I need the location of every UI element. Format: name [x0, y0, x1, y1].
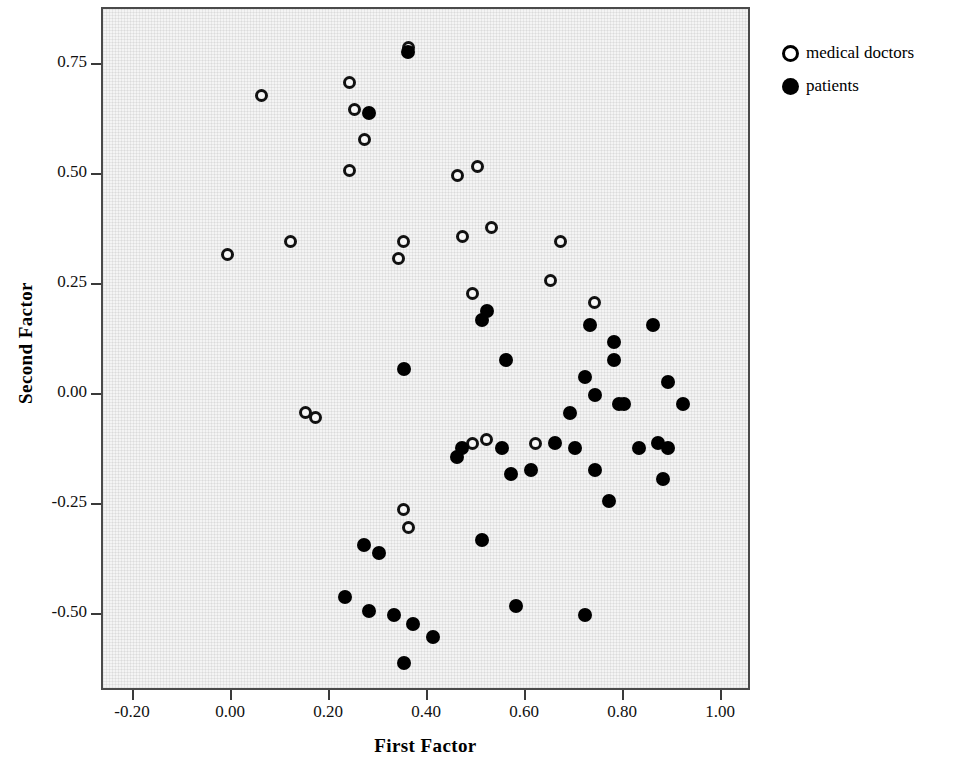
data-point-patient: [578, 608, 592, 622]
data-point-patient: [426, 630, 440, 644]
open-circle-icon: [782, 45, 799, 62]
y-tick-label: -0.25: [11, 492, 87, 512]
data-point-patient: [475, 313, 489, 327]
data-point-medical-doctor: [392, 252, 405, 265]
data-point-patient: [401, 45, 415, 59]
data-point-medical-doctor: [348, 103, 361, 116]
legend: medical doctors patients: [782, 42, 957, 108]
data-point-patient: [475, 533, 489, 547]
x-tick-label: 0.40: [391, 702, 461, 722]
x-tick-mark: [622, 690, 624, 700]
data-point-medical-doctor: [284, 235, 297, 248]
data-point-patient: [406, 617, 420, 631]
data-point-patient: [578, 370, 592, 384]
x-tick-label: 0.00: [195, 702, 265, 722]
legend-item-patients: patients: [782, 75, 957, 97]
data-point-patient: [583, 318, 597, 332]
data-point-patient: [676, 397, 690, 411]
data-point-patient: [563, 406, 577, 420]
data-point-medical-doctor: [485, 221, 498, 234]
data-point-patient: [450, 450, 464, 464]
data-point-patient: [656, 472, 670, 486]
data-point-patient: [357, 538, 371, 552]
y-tick-mark: [91, 613, 101, 615]
data-point-patient: [568, 441, 582, 455]
data-point-patient: [548, 436, 562, 450]
y-tick-label: 0.50: [11, 162, 87, 182]
data-point-patient: [504, 467, 518, 481]
data-point-patient: [387, 608, 401, 622]
data-points-layer: [103, 9, 748, 688]
data-point-patient: [362, 106, 376, 120]
filled-circle-icon: [782, 78, 799, 95]
data-point-patient: [372, 546, 386, 560]
data-point-medical-doctor: [221, 248, 234, 261]
data-point-medical-doctor: [397, 235, 410, 248]
y-tick-mark: [91, 503, 101, 505]
data-point-medical-doctor: [471, 160, 484, 173]
data-point-patient: [397, 656, 411, 670]
data-point-patient: [362, 604, 376, 618]
x-tick-label: 0.60: [489, 702, 559, 722]
y-tick-mark: [91, 173, 101, 175]
x-tick-mark: [524, 690, 526, 700]
data-point-patient: [397, 362, 411, 376]
y-tick-mark: [91, 63, 101, 65]
x-tick-label: -0.20: [97, 702, 167, 722]
scatter-plot-figure: -0.200.000.200.400.600.801.00 0.750.500.…: [0, 0, 959, 775]
y-tick-label: 0.75: [11, 52, 87, 72]
x-tick-mark: [230, 690, 232, 700]
data-point-patient: [607, 335, 621, 349]
data-point-medical-doctor: [466, 287, 479, 300]
x-tick-mark: [328, 690, 330, 700]
data-point-medical-doctor: [456, 230, 469, 243]
legend-label-medical-doctors: medical doctors: [806, 43, 914, 63]
data-point-medical-doctor: [255, 89, 268, 102]
data-point-patient: [509, 599, 523, 613]
data-point-medical-doctor: [358, 133, 371, 146]
data-point-patient: [632, 441, 646, 455]
x-tick-mark: [720, 690, 722, 700]
data-point-medical-doctor: [529, 437, 542, 450]
x-tick-mark: [426, 690, 428, 700]
data-point-medical-doctor: [544, 274, 557, 287]
x-axis-label: First Factor: [101, 735, 750, 757]
data-point-medical-doctor: [451, 169, 464, 182]
data-point-patient: [495, 441, 509, 455]
y-tick-label: -0.50: [11, 602, 87, 622]
data-point-patient: [607, 353, 621, 367]
y-axis-label: Second Factor: [15, 233, 37, 453]
data-point-medical-doctor: [309, 411, 322, 424]
data-point-patient: [338, 590, 352, 604]
data-point-medical-doctor: [343, 164, 356, 177]
legend-label-patients: patients: [806, 76, 859, 96]
data-point-medical-doctor: [588, 296, 601, 309]
data-point-patient: [646, 318, 660, 332]
data-point-patient: [602, 494, 616, 508]
legend-item-medical-doctors: medical doctors: [782, 42, 957, 64]
x-tick-mark: [132, 690, 134, 700]
x-tick-label: 1.00: [685, 702, 755, 722]
data-point-medical-doctor: [554, 235, 567, 248]
data-point-medical-doctor: [402, 521, 415, 534]
data-point-patient: [661, 375, 675, 389]
x-tick-label: 0.80: [587, 702, 657, 722]
data-point-medical-doctor: [480, 433, 493, 446]
data-point-patient: [499, 353, 513, 367]
data-point-medical-doctor: [397, 503, 410, 516]
data-point-medical-doctor: [343, 76, 356, 89]
plot-area: [101, 7, 750, 690]
y-tick-mark: [91, 393, 101, 395]
data-point-patient: [524, 463, 538, 477]
data-point-patient: [661, 441, 675, 455]
y-tick-mark: [91, 283, 101, 285]
data-point-patient: [588, 388, 602, 402]
x-tick-label: 0.20: [293, 702, 363, 722]
data-point-patient: [617, 397, 631, 411]
data-point-patient: [588, 463, 602, 477]
